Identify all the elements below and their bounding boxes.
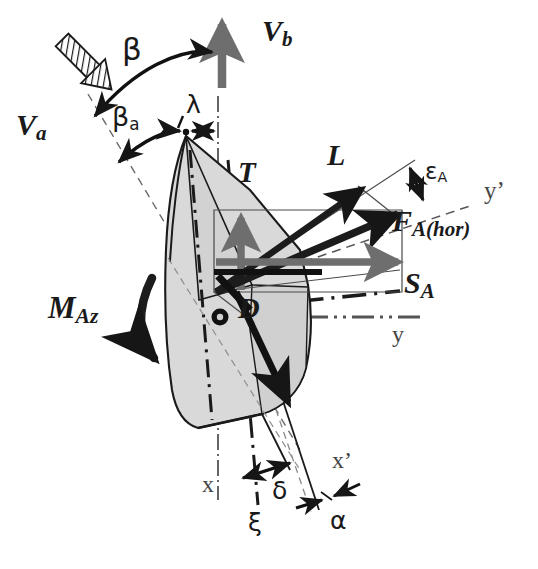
label-axis-x: x: [202, 472, 214, 496]
diagram-canvas: [0, 0, 538, 569]
angle-epsilon-a-arrow: [410, 168, 423, 200]
label-lift-l: L: [327, 140, 345, 170]
angle-beta-a-arc: [119, 131, 180, 162]
label-xi: ξ: [248, 510, 262, 535]
label-fa-hor: FA(hor): [392, 206, 470, 240]
vector-maz-curved-arrow: [141, 278, 154, 358]
label-drag-d: D: [238, 293, 260, 323]
mast-top-node: [183, 129, 189, 135]
label-lambda: λ: [186, 92, 201, 117]
label-delta: δ: [272, 478, 287, 503]
label-maz: MAz: [48, 292, 98, 328]
label-beta: β: [122, 34, 142, 65]
label-beta-a: βa: [112, 103, 140, 132]
force-diagram-figure: Va Vb β βa λ T L D FA(hor) SA εA MAz δ ξ…: [0, 0, 538, 569]
vector-va: [50, 28, 124, 102]
label-vb: Vb: [262, 16, 293, 50]
origin-pivot-dot: [212, 309, 229, 326]
label-va: Va: [16, 110, 47, 144]
angle-alpha-arrow: [296, 484, 360, 508]
label-thrust-t: T: [238, 158, 256, 187]
label-axis-x-prime: x’: [332, 448, 352, 472]
label-axis-y: y: [392, 322, 404, 346]
label-epsilon-a: εA: [425, 160, 447, 184]
label-axis-y-prime: y’: [484, 178, 505, 203]
label-sa: SA: [404, 268, 435, 302]
label-alpha: α: [330, 508, 346, 533]
